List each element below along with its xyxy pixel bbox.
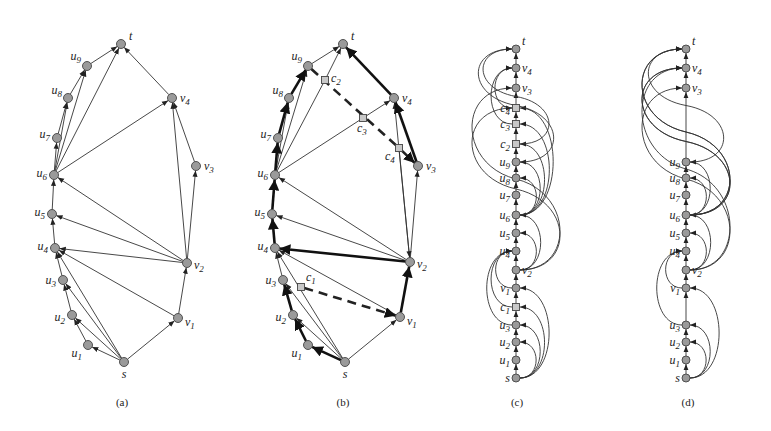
edge-u9-t <box>91 46 117 63</box>
edge-u6-c3 <box>279 120 360 173</box>
edge-s-u2 <box>296 318 341 359</box>
node-v1 <box>174 314 183 323</box>
node-u3 <box>682 321 690 329</box>
node-label-c4: c4 <box>385 149 395 165</box>
edge-u3-u4 <box>276 252 282 275</box>
node-label-v1: v1 <box>185 315 195 331</box>
node-label-s: s <box>122 367 127 381</box>
node-label-v4: v4 <box>522 61 532 77</box>
node-label-u8: u8 <box>273 83 284 99</box>
node-label-c2: c2 <box>331 71 341 87</box>
caption-a: (a) <box>116 396 129 409</box>
edge-v4-t <box>124 47 169 94</box>
node-u3 <box>59 276 68 285</box>
node-u7 <box>512 191 520 199</box>
node-u1 <box>84 341 93 350</box>
node-u9 <box>682 158 690 166</box>
node-u5 <box>512 229 520 237</box>
node-label-u9: u9 <box>292 49 303 65</box>
edge-u6-u9 <box>276 70 306 170</box>
crossing-node-c4 <box>513 105 520 112</box>
crossing-node-c1 <box>298 284 305 291</box>
node-label-v3: v3 <box>204 159 214 175</box>
edge-v1-v2 <box>401 266 409 312</box>
node-u2 <box>512 338 520 346</box>
node-label-c2: c2 <box>500 137 510 153</box>
node-label-u1: u1 <box>292 346 303 362</box>
edge-u6-v4 <box>58 100 168 172</box>
node-label-u9: u9 <box>670 155 681 171</box>
node-v3 <box>192 162 201 171</box>
node-label-c4: c4 <box>500 101 510 117</box>
node-label-u5: u5 <box>670 226 681 242</box>
node-v2 <box>512 266 520 274</box>
node-u2 <box>68 311 77 320</box>
node-t <box>339 40 348 49</box>
node-label-v3: v3 <box>692 81 702 97</box>
node-label-u3: u3 <box>500 318 511 334</box>
node-u6 <box>271 171 280 180</box>
panel-b: tu9u8u7u6u5u4u3u2u1sv1v2v3v4c1c2c3c4 <box>255 29 437 381</box>
node-v3 <box>682 84 690 92</box>
node-v4 <box>390 94 399 103</box>
crossing-node-c1 <box>513 304 520 311</box>
node-label-u1: u1 <box>72 346 83 362</box>
node-s <box>120 358 129 367</box>
node-label-s: s <box>505 371 510 385</box>
node-label-u4: u4 <box>38 239 49 255</box>
node-v4 <box>512 64 520 72</box>
edge-s-v1 <box>127 321 174 359</box>
node-u7 <box>53 134 62 143</box>
node-t <box>512 45 520 53</box>
node-label-v1: v1 <box>670 281 680 297</box>
edge-u2-u3 <box>64 284 71 310</box>
node-u5 <box>48 210 57 219</box>
node-label-v3: v3 <box>522 81 532 97</box>
node-u7 <box>274 134 283 143</box>
node-label-u3: u3 <box>266 273 277 289</box>
node-v4 <box>682 64 690 72</box>
edge-v1-v2 <box>179 267 187 313</box>
edge-v2-u5 <box>56 216 183 262</box>
node-u8 <box>682 174 690 182</box>
node-label-v1: v1 <box>407 314 417 330</box>
graph-figure: tu9u8u7u6u5u4u3u2u1sv1v2v3v4 tu9u8u7u6u5… <box>0 0 771 431</box>
node-label-u8: u8 <box>500 171 511 187</box>
node-u1 <box>682 356 690 364</box>
panel-d: su1u2u3v1v2u4u5u6u7u8u9v3v4t <box>642 34 730 385</box>
node-label-u6: u6 <box>670 208 681 224</box>
node-label-u2: u2 <box>55 310 66 326</box>
node-label-t: t <box>522 34 526 48</box>
node-label-u7: u7 <box>500 188 511 204</box>
node-label-u7: u7 <box>40 127 51 143</box>
node-label-t: t <box>129 29 133 43</box>
edge-u6-u9 <box>55 70 85 170</box>
node-label-u9: u9 <box>71 49 82 65</box>
node-label-v4: v4 <box>402 91 412 107</box>
edge-s-v1 <box>348 320 396 359</box>
node-v2 <box>183 259 192 268</box>
node-v4 <box>168 94 177 103</box>
node-v2 <box>682 266 690 274</box>
node-label-u6: u6 <box>500 208 511 224</box>
node-label-u4: u4 <box>670 244 681 260</box>
node-label-v4: v4 <box>692 61 702 77</box>
edge-v2-v4 <box>172 102 186 258</box>
node-label-t: t <box>692 34 696 48</box>
node-u1 <box>304 341 313 350</box>
crossing-node-c3 <box>513 121 520 128</box>
node-label-s: s <box>675 371 680 385</box>
arc-edge-v2-u6 <box>690 215 711 270</box>
node-v3 <box>512 84 520 92</box>
node-u5 <box>268 210 277 219</box>
edge-u2-u3 <box>284 284 292 310</box>
node-label-c1: c1 <box>306 270 316 286</box>
node-label-u5: u5 <box>255 205 266 221</box>
node-label-u9: u9 <box>500 155 511 171</box>
edge-c1-v1 <box>304 288 395 316</box>
node-u9 <box>304 62 313 71</box>
arc-edge-v2-u6 <box>520 215 541 270</box>
edge-u3-u4 <box>56 252 62 275</box>
node-label-u7: u7 <box>261 127 272 143</box>
node-u6 <box>682 211 690 219</box>
